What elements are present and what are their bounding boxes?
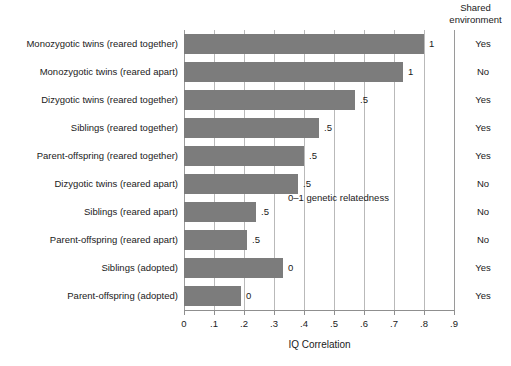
genetic-relatedness-annotation: 0–1 genetic relatedness: [288, 192, 389, 204]
bar-row: .5: [184, 142, 454, 170]
shared-environment-header-line2: environment: [440, 14, 511, 26]
x-axis-tick: [334, 310, 335, 315]
x-axis-tick: [244, 310, 245, 315]
bar: [184, 146, 304, 166]
shared-environment-header: Shared environment: [440, 2, 511, 26]
x-axis-tick: [184, 310, 185, 315]
shared-environment-value: Yes: [455, 94, 511, 106]
x-axis-tick-label: 0: [172, 318, 196, 330]
bar-value-label: 0: [288, 262, 293, 274]
bar-row: 1: [184, 58, 454, 86]
bar-value-label: .5: [324, 122, 332, 134]
x-axis-tick-label: .3: [262, 318, 286, 330]
category-label: Siblings (reared together): [0, 122, 178, 134]
bar-value-label: .5: [360, 94, 368, 106]
x-axis-tick-label: .1: [202, 318, 226, 330]
shared-environment-value: Yes: [455, 38, 511, 50]
shared-environment-value: Yes: [455, 290, 511, 302]
x-axis-baseline: [184, 310, 455, 311]
bar: [184, 118, 319, 138]
bar-value-label: 0: [246, 290, 251, 302]
bar-row: 0: [184, 282, 454, 310]
shared-environment-header-line1: Shared: [440, 2, 511, 14]
category-label: Monozygotic twins (reared together): [0, 38, 178, 50]
x-axis-tick-label: .2: [232, 318, 256, 330]
x-axis-tick: [214, 310, 215, 315]
x-axis-tick: [454, 310, 455, 315]
bar: [184, 174, 298, 194]
bar-row: .5: [184, 226, 454, 254]
bar: [184, 286, 241, 306]
category-label: Siblings (adopted): [0, 262, 178, 274]
bar: [184, 202, 256, 222]
bar-value-label: .5: [303, 178, 311, 190]
bar: [184, 90, 355, 110]
x-axis-tick-label: .4: [292, 318, 316, 330]
x-axis-tick: [364, 310, 365, 315]
bar-value-label: .5: [261, 206, 269, 218]
x-axis-tick-label: .7: [382, 318, 406, 330]
category-label: Parent-offspring (adopted): [0, 290, 178, 302]
bar: [184, 34, 424, 54]
bar-value-label: .5: [252, 234, 260, 246]
iq-correlation-chart: Shared environment 11.5.5.5.5.5.500 0.1.…: [0, 0, 511, 366]
shared-environment-value: Yes: [455, 150, 511, 162]
shared-environment-value: No: [455, 234, 511, 246]
shared-environment-value: No: [455, 206, 511, 218]
x-axis-tick-label: .6: [352, 318, 376, 330]
shared-environment-value: No: [455, 66, 511, 78]
bar: [184, 258, 283, 278]
bar: [184, 62, 403, 82]
x-axis-tick: [304, 310, 305, 315]
shared-environment-value: Yes: [455, 262, 511, 274]
bar-row: 1: [184, 30, 454, 58]
plot-area: 11.5.5.5.5.5.500: [184, 30, 454, 310]
category-label: Parent-offspring (reared together): [0, 150, 178, 162]
bar-row: 0: [184, 254, 454, 282]
bar-value-label: 1: [429, 38, 434, 50]
x-axis-tick: [394, 310, 395, 315]
x-axis-tick: [274, 310, 275, 315]
category-label: Siblings (reared apart): [0, 206, 178, 218]
x-axis-title: IQ Correlation: [184, 338, 455, 351]
x-axis-tick: [424, 310, 425, 315]
bar-value-label: .5: [309, 150, 317, 162]
category-label: Monozygotic twins (reared apart): [0, 66, 178, 78]
category-label: Parent-offspring (reared apart): [0, 234, 178, 246]
bar-value-label: 1: [408, 66, 413, 78]
shared-environment-value: Yes: [455, 122, 511, 134]
bar-row: .5: [184, 114, 454, 142]
category-label: Dizygotic twins (reared together): [0, 94, 178, 106]
x-axis-tick-label: .5: [322, 318, 346, 330]
x-axis-tick-label: .8: [412, 318, 436, 330]
shared-environment-value: No: [455, 178, 511, 190]
x-axis-tick-label: .9: [442, 318, 466, 330]
bar-row: .5: [184, 86, 454, 114]
bar: [184, 230, 247, 250]
category-label: Dizygotic twins (reared apart): [0, 178, 178, 190]
